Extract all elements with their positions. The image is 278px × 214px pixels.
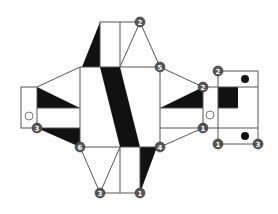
diagram-canvas: 2 5 2 1 4 1 3 6 3 2 1 3 <box>0 0 278 214</box>
svg-text:2: 2 <box>216 68 221 76</box>
center-black-band <box>100 67 140 147</box>
box-bottom-dot <box>241 132 249 140</box>
left-lower-black-wedge <box>37 128 80 147</box>
svg-text:2: 2 <box>138 19 143 27</box>
left-hole-circle <box>25 112 33 120</box>
svg-text:1: 1 <box>138 190 143 198</box>
outline-lines <box>21 22 258 193</box>
svg-text:3: 3 <box>98 190 103 198</box>
node-top-2: 2 <box>135 17 145 27</box>
net-diagram: 2 5 2 1 4 1 3 6 3 2 1 3 <box>0 0 278 214</box>
node-right-upper-2: 2 <box>198 82 208 92</box>
left-upper-black-triangle <box>37 87 80 108</box>
right-hole-circle <box>206 111 214 119</box>
svg-text:6: 6 <box>78 144 83 152</box>
node-4: 4 <box>155 142 165 152</box>
top-left-black-triangle <box>82 22 100 67</box>
node-5: 5 <box>155 62 165 72</box>
bottom-black-triangle <box>140 147 157 193</box>
svg-text:4: 4 <box>158 144 163 152</box>
node-6: 6 <box>75 142 85 152</box>
node-right-lower-1: 1 <box>198 123 208 133</box>
right-black-triangle <box>160 87 203 108</box>
svg-text:1: 1 <box>201 125 206 133</box>
right-black-square <box>218 87 238 108</box>
svg-text:5: 5 <box>158 64 163 72</box>
svg-text:3: 3 <box>35 125 40 133</box>
node-box-bottom-left-1: 1 <box>213 139 223 149</box>
node-box-top-2: 2 <box>213 66 223 76</box>
node-left-3: 3 <box>32 123 42 133</box>
node-box-bottom-right-3: 3 <box>253 139 263 149</box>
node-bottom-right-1: 1 <box>135 188 145 198</box>
box-top-dot <box>241 75 249 83</box>
svg-text:1: 1 <box>216 141 221 149</box>
node-bottom-left-3: 3 <box>95 188 105 198</box>
svg-text:3: 3 <box>256 141 261 149</box>
svg-text:2: 2 <box>201 84 206 92</box>
